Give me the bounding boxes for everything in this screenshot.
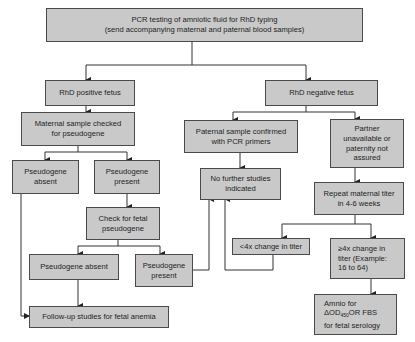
amnio-or-fbs: OR FBS (349, 308, 377, 317)
node-label: <4x change in titer (240, 242, 302, 252)
node-pseudogene-present-1: Pseudogene present (94, 160, 160, 194)
node-label: Paternal sample confirmed with PCR prime… (196, 127, 286, 146)
node-label: RhD positive fetus (59, 88, 121, 98)
node-rhd-negative: RhD negative fetus (265, 80, 378, 106)
node-maternal-checked: Maternal sample checked for pseudogene (21, 112, 135, 146)
node-label: ≥4x change in titer (Example: 16 to 64) (338, 244, 387, 273)
node-repeat-maternal-titer: Repeat maternal titer in 4-6 weeks (314, 182, 404, 215)
node-label: Pseudogene present (106, 167, 149, 186)
node-pseudogene-absent-1: Pseudogene absent (12, 160, 79, 194)
root-box-label: PCR testing of amniotic fluid for RhD ty… (105, 15, 305, 34)
amnio-line-3: for fetal serology (324, 321, 380, 331)
node-greater-equal-4x: ≥4x change in titer (Example: 16 to 64) (330, 238, 405, 279)
node-label: Maternal sample checked for pseudogene (35, 119, 122, 138)
node-less-than-4x: <4x change in titer (232, 238, 310, 255)
node-label: Pseudogene absent (24, 167, 67, 186)
amnio-line-2: ΔOD450OR FBS (324, 308, 380, 321)
node-check-fetal-pseudogene: Check for fetal pseudogene (86, 207, 160, 240)
node-paternal-confirmed: Paternal sample confirmed with PCR prime… (184, 120, 298, 153)
amnio-subscript: 450 (340, 312, 348, 318)
node-followup-studies: Follow-up studies for fetal anemia (29, 306, 169, 328)
amnio-text: Amnio for ΔOD450OR FBS for fetal serolog… (324, 299, 380, 331)
amnio-delta-od: ΔOD (324, 308, 340, 317)
node-partner-unavailable: Partner unavailable or paternity not ass… (330, 119, 404, 168)
amnio-line-1: Amnio for (324, 299, 380, 309)
node-pseudogene-present-2: Pseudogene present (135, 254, 193, 287)
node-label: Check for fetal pseudogene (99, 214, 148, 233)
root-box-pcr-testing: PCR testing of amniotic fluid for RhD ty… (46, 8, 363, 42)
node-rhd-positive: RhD positive fetus (45, 80, 135, 106)
node-label: Pseudogene absent (40, 262, 108, 272)
node-label: RhD negative fetus (289, 88, 354, 98)
node-pseudogene-absent-2: Pseudogene absent (29, 254, 119, 280)
node-label: Partner unavailable or paternity not ass… (343, 124, 390, 162)
node-amnio: Amnio for ΔOD450OR FBS for fetal serolog… (314, 294, 397, 335)
node-label: Pseudogene present (143, 261, 186, 280)
node-label: Follow-up studies for fetal anemia (42, 312, 156, 322)
node-label: No further studies indicated (211, 174, 271, 193)
node-no-further-studies: No further studies indicated (200, 168, 281, 200)
node-label: Repeat maternal titer in 4-6 weeks (324, 189, 395, 208)
